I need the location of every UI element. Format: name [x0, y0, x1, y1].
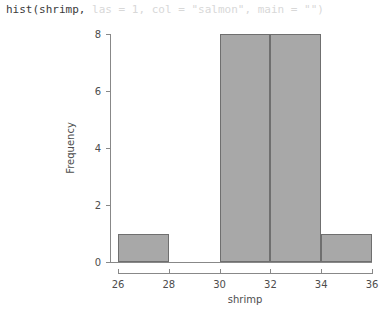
histogram-bar	[271, 35, 321, 262]
x-axis-ticks: 262830323436	[112, 269, 379, 290]
histogram-bar	[220, 35, 270, 262]
histogram-bar	[119, 234, 169, 262]
x-tick-label: 34	[315, 279, 328, 290]
x-axis-title: shrimp	[228, 294, 263, 305]
x-tick-label: 36	[366, 279, 379, 290]
histogram-bars	[119, 35, 372, 262]
y-tick-label: 6	[95, 86, 101, 97]
y-tick-label: 8	[95, 29, 101, 40]
histogram-svg: 02468 262830323436 shrimp Frequency	[0, 20, 389, 316]
x-tick-label: 32	[264, 279, 277, 290]
y-tick-label: 2	[95, 200, 101, 211]
y-tick-label: 0	[95, 257, 101, 268]
x-tick-label: 28	[162, 279, 175, 290]
x-tick-label: 26	[112, 279, 125, 290]
code-faded-segment: las = 1, col = "salmon", main = "")	[85, 3, 323, 16]
code-line: hist(shrimp, las = 1, col = "salmon", ma…	[6, 3, 324, 17]
y-tick-label: 4	[95, 143, 101, 154]
y-axis-title: Frequency	[65, 122, 76, 174]
histogram-plot: 02468 262830323436 shrimp Frequency	[0, 20, 389, 316]
histogram-bar	[322, 234, 372, 262]
y-axis-ticks: 02468	[95, 29, 111, 268]
code-active-segment: hist(shrimp,	[6, 3, 85, 16]
x-tick-label: 30	[213, 279, 226, 290]
